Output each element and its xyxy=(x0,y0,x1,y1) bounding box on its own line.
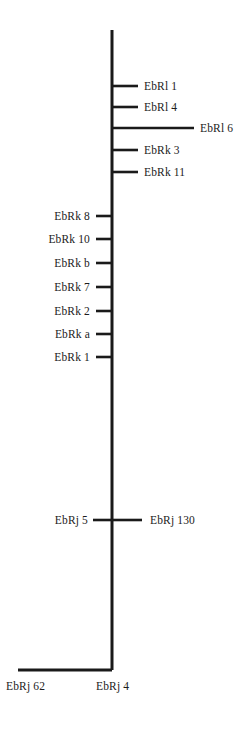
node-label-ebrl-6: EbRl 6 xyxy=(200,122,233,134)
node-label-ebrl-1: EbRl 1 xyxy=(144,80,177,92)
node-label-ebrk-3: EbRk 3 xyxy=(144,144,180,156)
node-label-ebrk-10: EbRk 10 xyxy=(48,233,90,245)
node-label-ebrk-7: EbRk 7 xyxy=(54,281,90,293)
node-label-ebrj-130: EbRj 130 xyxy=(150,514,195,526)
node-label-ebrk-b: EbRk b xyxy=(54,257,90,269)
node-label-ebrk-2: EbRk 2 xyxy=(54,305,90,317)
node-label-ebrk-11: EbRk 11 xyxy=(144,166,185,178)
node-label-ebrl-4: EbRl 4 xyxy=(144,101,177,113)
node-label-ebrj-5: EbRj 5 xyxy=(55,514,88,526)
node-label-ebrk-1: EbRk 1 xyxy=(54,351,90,363)
node-label-ebrj-4: EbRj 4 xyxy=(96,680,129,692)
node-label-ebrj-62: EbRj 62 xyxy=(6,680,45,692)
phylogenetic-tree-diagram: EbRl 1EbRl 4EbRl 6EbRk 3EbRk 11EbRk 8EbR… xyxy=(0,0,250,730)
node-label-ebrk-a: EbRk a xyxy=(55,328,90,340)
tree-line-graphic xyxy=(0,0,250,730)
node-label-ebrk-8: EbRk 8 xyxy=(54,210,90,222)
